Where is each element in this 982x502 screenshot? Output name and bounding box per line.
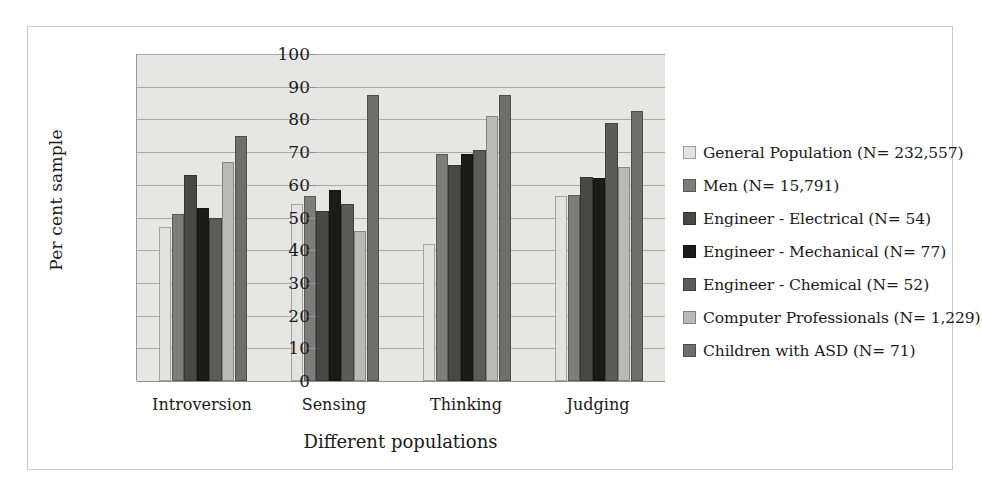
- y-axis-tick-label: 80: [250, 111, 310, 128]
- legend-swatch-icon: [683, 278, 696, 291]
- legend-swatch-icon: [683, 179, 696, 192]
- y-axis-tick-label: 100: [250, 46, 310, 63]
- legend-item: Children with ASD (N= 71): [683, 334, 951, 367]
- legend-item-label: Engineer - Electrical (N= 54): [703, 210, 931, 228]
- bar: [209, 218, 222, 382]
- legend-swatch-icon: [683, 245, 696, 258]
- y-axis-tick-mark: [308, 348, 316, 349]
- x-axis-title: Different populations: [136, 431, 665, 452]
- bar: [172, 214, 185, 381]
- legend-item-label: Engineer - Chemical (N= 52): [703, 276, 929, 294]
- bar-group: [401, 54, 533, 381]
- legend-item: Computer Professionals (N= 1,229): [683, 301, 951, 334]
- bar: [197, 208, 210, 381]
- legend-item-label: Children with ASD (N= 71): [703, 342, 916, 360]
- plot-area: [136, 54, 665, 381]
- bar: [341, 204, 354, 381]
- bar: [631, 111, 644, 381]
- legend-swatch-icon: [683, 344, 696, 357]
- legend-item: Engineer - Chemical (N= 52): [683, 268, 951, 301]
- legend-item-label: General Population (N= 232,557): [703, 144, 963, 162]
- y-axis-tick-label: 60: [250, 176, 310, 193]
- bar: [461, 154, 474, 381]
- y-axis-tick-mark: [308, 381, 316, 382]
- y-axis-tick-label: 40: [250, 242, 310, 259]
- legend-swatch-icon: [683, 311, 696, 324]
- y-axis-title: Per cent sample: [46, 80, 66, 320]
- chart-figure: Per cent sample Different populations Ge…: [27, 26, 953, 470]
- legend-item-label: Computer Professionals (N= 1,229): [703, 309, 981, 327]
- y-axis-tick-mark: [308, 283, 316, 284]
- bar: [499, 95, 512, 381]
- bar: [235, 136, 248, 381]
- bar: [568, 195, 581, 381]
- y-axis-tick-mark: [308, 119, 316, 120]
- bar: [618, 167, 631, 381]
- bar: [316, 211, 329, 381]
- bar: [605, 123, 618, 381]
- y-axis-tick-label: 0: [250, 373, 310, 390]
- bar: [222, 162, 235, 381]
- legend-item-label: Engineer - Mechanical (N= 77): [703, 243, 946, 261]
- plot-surface: [137, 54, 665, 381]
- chart-legend: General Population (N= 232,557)Men (N= 1…: [683, 136, 951, 367]
- y-axis-tick-label: 90: [250, 78, 310, 95]
- y-axis-tick-label: 50: [250, 209, 310, 226]
- bar: [159, 227, 172, 381]
- y-axis-tick-mark: [308, 316, 316, 317]
- bar: [580, 177, 593, 381]
- bar: [354, 231, 367, 381]
- y-axis-tick-mark: [308, 152, 316, 153]
- y-axis-tick-label: 30: [250, 274, 310, 291]
- bar: [184, 175, 197, 381]
- legend-item: Men (N= 15,791): [683, 169, 951, 202]
- legend-swatch-icon: [683, 146, 696, 159]
- legend-item: Engineer - Mechanical (N= 77): [683, 235, 951, 268]
- bar: [555, 196, 568, 381]
- bar: [367, 95, 380, 381]
- y-axis-tick-label: 70: [250, 144, 310, 161]
- bar: [423, 244, 436, 381]
- y-axis-tick-mark: [308, 185, 316, 186]
- bar: [448, 165, 461, 381]
- bar: [329, 190, 342, 381]
- y-axis-tick-label: 10: [250, 340, 310, 357]
- legend-item-label: Men (N= 15,791): [703, 177, 839, 195]
- y-axis-tick-mark: [308, 250, 316, 251]
- bar: [486, 116, 499, 381]
- legend-item: Engineer - Electrical (N= 54): [683, 202, 951, 235]
- y-axis-tick-mark: [308, 218, 316, 219]
- bar-group: [533, 54, 665, 381]
- bar: [436, 154, 449, 381]
- bar: [473, 150, 486, 381]
- y-axis-tick-label: 20: [250, 307, 310, 324]
- bar: [593, 178, 606, 381]
- legend-swatch-icon: [683, 212, 696, 225]
- x-axis-line: [137, 381, 665, 382]
- legend-item: General Population (N= 232,557): [683, 136, 951, 169]
- y-axis-tick-mark: [308, 87, 316, 88]
- y-axis-tick-mark: [308, 54, 316, 55]
- x-axis-tick-label: Judging: [518, 395, 678, 414]
